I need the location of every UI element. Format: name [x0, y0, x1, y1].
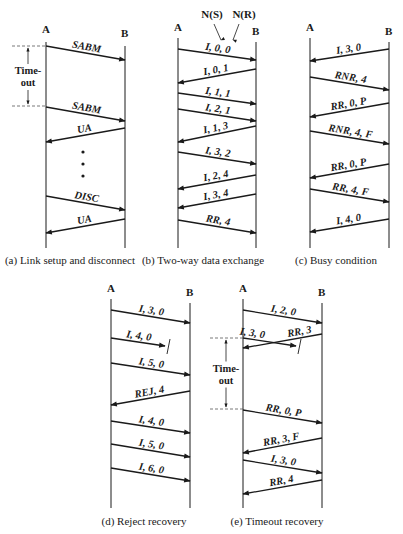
station-label-a: A [239, 282, 247, 294]
message-d-3: REJ, 4 [111, 384, 190, 405]
station-label-b: B [385, 25, 393, 37]
hdlc-operation-diagrams: ABTime-outSABMSABMUADISCUA(a) Link setup… [0, 0, 403, 534]
caption-d: (d) Reject recovery [102, 515, 187, 528]
station-label-b: B [318, 286, 326, 298]
message-c-6: I, 4, 0 [310, 212, 389, 232]
diagram-a: ABTime-outSABMSABMUADISCUA(a) Link setup… [5, 23, 135, 267]
station-label-b: B [186, 286, 194, 298]
message-label: SABM [71, 39, 102, 55]
annotation-arrow [233, 24, 239, 40]
message-label: I, 1, 3 [201, 120, 229, 136]
message-b-1: I, 0, 1 [178, 62, 256, 83]
annotation-label: N(S) [201, 8, 223, 21]
message-label: REJ, 4 [133, 384, 165, 400]
message-label: RNR, 4 [333, 69, 367, 85]
lost-frame-marker-icon [298, 339, 301, 354]
message-b-0: I, 0, 0 [178, 41, 256, 60]
timeout-label-line1: Time- [15, 65, 42, 76]
station-label-a: A [107, 282, 115, 294]
station-label-a: A [42, 23, 50, 35]
message-b-2: I, 1, 1 [178, 85, 256, 104]
message-d-5: I, 5, 0 [111, 436, 190, 457]
diagram-e: ABTime-outI, 2, 0I, 3, 0RR, 3RR, 0, PRR,… [210, 282, 326, 528]
message-d-1: I, 4, 0 [111, 328, 170, 354]
caption-b: (b) Two-way data exchange [142, 254, 264, 267]
caption-c: (c) Busy condition [295, 254, 377, 267]
message-c-3: RNR, 4, F [310, 122, 389, 144]
message-b-3: I, 2, 1 [178, 101, 256, 121]
message-c-4: RR, 0, P [310, 156, 389, 178]
message-d-6: I, 6, 0 [111, 460, 190, 481]
message-label: UA [76, 213, 92, 226]
station-label-b: B [121, 27, 129, 39]
message-e-4: RR, 3, F [243, 430, 322, 453]
diagram-d: ABI, 3, 0I, 4, 0I, 5, 0REJ, 4I, 4, 0I, 5… [102, 282, 194, 528]
message-e-0: I, 2, 0 [243, 302, 322, 323]
message-e-5: I, 3, 0 [243, 452, 322, 473]
message-d-4: I, 4, 0 [111, 413, 190, 433]
continuation-dot [81, 150, 84, 153]
continuation-dot [81, 174, 84, 177]
station-label-b: B [252, 25, 260, 37]
message-b-4: I, 1, 3 [178, 120, 256, 142]
diagram-c: ABI, 3, 0RNR, 4RR, 0, PRNR, 4, FRR, 0, P… [295, 21, 393, 267]
annotation-label: N(R) [232, 8, 256, 21]
annotation-arrow [214, 24, 221, 40]
caption-a: (a) Link setup and disconnect [5, 254, 135, 267]
message-c-2: RR, 0, P [310, 95, 389, 117]
message-a-4: UA [46, 213, 125, 233]
message-d-0: I, 3, 0 [111, 302, 190, 323]
message-b-7: I, 3, 4 [178, 187, 256, 208]
diagram-b: ABN(S)N(R)I, 0, 0I, 0, 1I, 1, 1I, 2, 1I,… [142, 8, 264, 267]
message-label: SABM [71, 100, 102, 116]
message-c-5: RR, 4, F [310, 181, 389, 202]
message-b-6: I, 2, 4 [178, 168, 256, 189]
message-e-3: RR, 0, P [243, 402, 322, 423]
message-b-8: RR, 4 [178, 212, 256, 233]
timeout-label-line1: Time- [213, 363, 240, 374]
timeout-label-line2: out [21, 77, 36, 88]
message-c-0: I, 3, 0 [310, 41, 389, 61]
station-label-a: A [174, 21, 182, 33]
message-b-5: I, 3, 2 [178, 144, 256, 164]
caption-e: (e) Timeout recovery [231, 515, 324, 528]
message-label: UA [76, 122, 92, 135]
message-d-2: I, 5, 0 [111, 355, 190, 375]
lost-frame-marker-icon [167, 339, 170, 354]
diagram-root: ABTime-outSABMSABMUADISCUA(a) Link setup… [5, 8, 393, 528]
message-a-1: SABM [46, 100, 125, 121]
message-a-2: UA [46, 122, 125, 142]
station-label-a: A [306, 21, 314, 33]
message-c-1: RNR, 4 [310, 69, 389, 90]
timeout-label-line2: out [219, 375, 234, 386]
message-a-0: SABM [46, 39, 125, 60]
arrow-a-to-b [243, 338, 296, 346]
message-a-3: DISC [46, 189, 125, 210]
continuation-dot [81, 162, 84, 165]
message-e-6: RR, 4 [243, 473, 322, 494]
